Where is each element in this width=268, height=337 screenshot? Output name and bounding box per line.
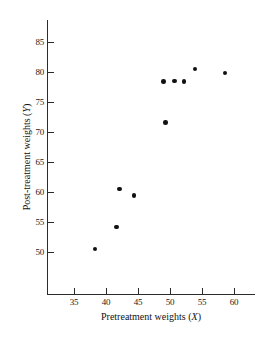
x-tick-label-wrap: 35 — [63, 297, 85, 308]
y-tick-50 — [48, 252, 54, 253]
y-tick-label-wrap: 50 — [24, 248, 44, 257]
scatter-plot-figure: 5055606570758085 354045505560 Pretreatme… — [0, 0, 268, 337]
data-point — [132, 193, 137, 198]
x-axis-line — [47, 294, 255, 295]
x-tick-40 — [106, 288, 107, 294]
x-tick-label: 45 — [127, 297, 149, 308]
y-tick-85 — [48, 42, 54, 43]
x-tick-label: 35 — [63, 297, 85, 308]
y-tick-60 — [48, 192, 54, 193]
y-tick-65 — [48, 162, 54, 163]
data-point — [93, 247, 98, 252]
data-point — [182, 79, 187, 84]
axis-variable-symbol: X — [192, 311, 198, 322]
x-tick-label: 60 — [223, 297, 245, 308]
x-tick-label-wrap: 60 — [223, 297, 245, 308]
data-point — [172, 79, 177, 84]
axis-variable-symbol: Y — [21, 107, 32, 113]
plot-area: 5055606570758085 354045505560 Pretreatme… — [0, 0, 268, 337]
data-point — [161, 79, 166, 84]
x-tick-label: 40 — [95, 297, 117, 308]
x-tick-35 — [74, 288, 75, 294]
y-tick-label: 85 — [26, 38, 44, 47]
x-tick-label: 55 — [191, 297, 213, 308]
x-tick-label-wrap: 45 — [127, 297, 149, 308]
y-tick-55 — [48, 222, 54, 223]
data-point — [114, 225, 119, 230]
x-tick-label: 50 — [159, 297, 181, 308]
y-tick-70 — [48, 132, 54, 133]
y-tick-label: 50 — [26, 248, 44, 257]
data-point — [223, 71, 228, 76]
x-axis-title: Pretreatment weights (X) — [47, 311, 255, 323]
y-tick-label-wrap: 85 — [24, 38, 44, 47]
y-tick-75 — [48, 102, 54, 103]
data-point — [163, 120, 168, 125]
x-tick-50 — [170, 288, 171, 294]
x-tick-label-wrap: 40 — [95, 297, 117, 308]
x-tick-label-wrap: 55 — [191, 297, 213, 308]
x-tick-55 — [202, 288, 203, 294]
x-tick-label-wrap: 50 — [159, 297, 181, 308]
x-tick-60 — [234, 288, 235, 294]
data-point — [117, 187, 122, 192]
x-tick-45 — [138, 288, 139, 294]
y-tick-80 — [48, 72, 54, 73]
y-axis-title: Post-treatment weights (Y) — [21, 67, 33, 247]
y-axis-line — [47, 20, 48, 295]
data-point — [193, 67, 198, 72]
